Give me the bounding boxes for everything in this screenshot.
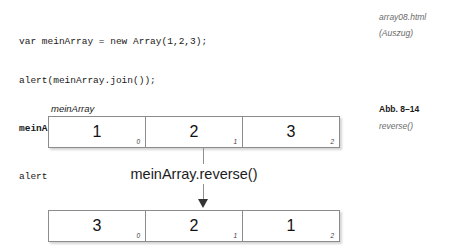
array-cell: 2 1 (146, 117, 243, 147)
array-cell-index: 0 (136, 139, 140, 146)
array-cell-value: 2 (146, 124, 242, 140)
arrow-head-icon (198, 199, 208, 208)
array-box-after: 3 0 2 1 1 2 (48, 210, 340, 242)
array-variable-label: meinArray (51, 103, 94, 114)
array-cell-index: 2 (330, 233, 334, 240)
array-cell-value: 2 (146, 218, 242, 234)
array-cell-value: 1 (243, 218, 339, 234)
array-cell: 1 2 (243, 211, 339, 241)
array-reverse-diagram: meinArray 1 0 2 1 3 2 meinArray.reverse(… (0, 0, 475, 247)
array-cell: 3 0 (49, 211, 146, 241)
array-cell: 2 1 (146, 211, 243, 241)
array-cell-index: 0 (136, 233, 140, 240)
array-cell-value: 3 (49, 218, 145, 234)
array-cell: 3 2 (243, 117, 339, 147)
array-cell-index: 1 (233, 139, 237, 146)
operation-label: meinArray.reverse() (48, 164, 340, 184)
array-cell: 1 0 (49, 117, 146, 147)
array-cell-value: 1 (49, 124, 145, 140)
array-box-before: 1 0 2 1 3 2 (48, 116, 340, 148)
array-cell-index: 2 (330, 139, 334, 146)
array-cell-index: 1 (233, 233, 237, 240)
array-cell-value: 3 (243, 124, 339, 140)
